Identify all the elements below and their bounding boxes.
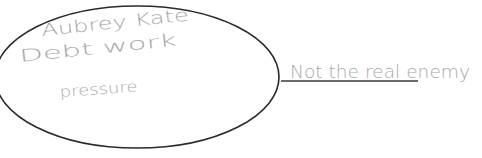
sketch-canvas: Aubrey Kate Debt work pressure Not the r… <box>0 0 482 158</box>
label-text: Not the real enemy <box>290 62 470 82</box>
ellipse-line-3: pressure <box>59 78 138 101</box>
